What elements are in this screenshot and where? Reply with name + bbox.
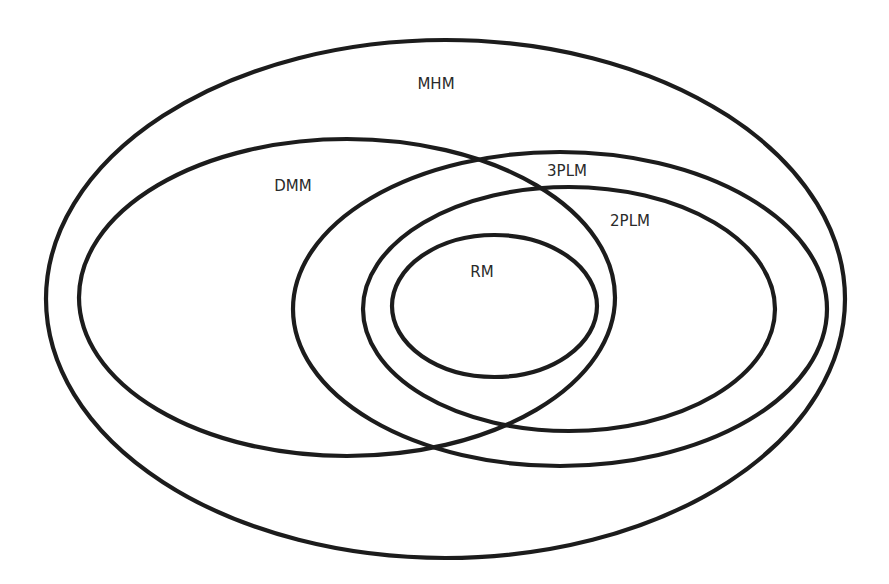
set-mhm-label: MHM — [417, 75, 454, 93]
set-rm-label: RM — [470, 263, 493, 281]
set-2plm-label: 2PLM — [610, 212, 650, 230]
euler-diagram: MHM DMM 3PLM 2PLM RM — [0, 0, 889, 584]
set-dmm-label: DMM — [274, 177, 311, 195]
set-3plm-label: 3PLM — [547, 162, 587, 180]
